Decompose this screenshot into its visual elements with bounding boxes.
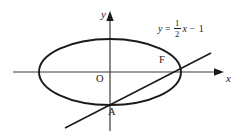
- origin-label: O: [96, 74, 104, 85]
- figure-canvas: [0, 0, 241, 139]
- point-f-label: F: [159, 55, 165, 66]
- equation-fraction-one-half: 1 2: [174, 19, 181, 39]
- line-equation-label: y = 1 2 x − 1: [158, 19, 205, 39]
- secant-line: [65, 53, 211, 128]
- y-axis-arrowhead: [106, 11, 113, 21]
- equation-equals-sign: =: [164, 24, 172, 34]
- x-axis-label: x: [226, 73, 231, 84]
- fraction-numerator: 1: [174, 19, 180, 28]
- equation-minus-sign: −: [189, 24, 197, 34]
- y-axis-label: y: [101, 9, 106, 20]
- equation-lhs: y: [158, 24, 162, 34]
- equation-variable-x: x: [183, 24, 187, 34]
- fraction-denominator: 2: [174, 30, 180, 39]
- x-axis-arrowhead: [214, 68, 224, 76]
- geometry-figure: y x O F A y = 1 2 x − 1: [0, 0, 241, 139]
- equation-constant: 1: [198, 24, 205, 34]
- point-a-label: A: [108, 107, 116, 118]
